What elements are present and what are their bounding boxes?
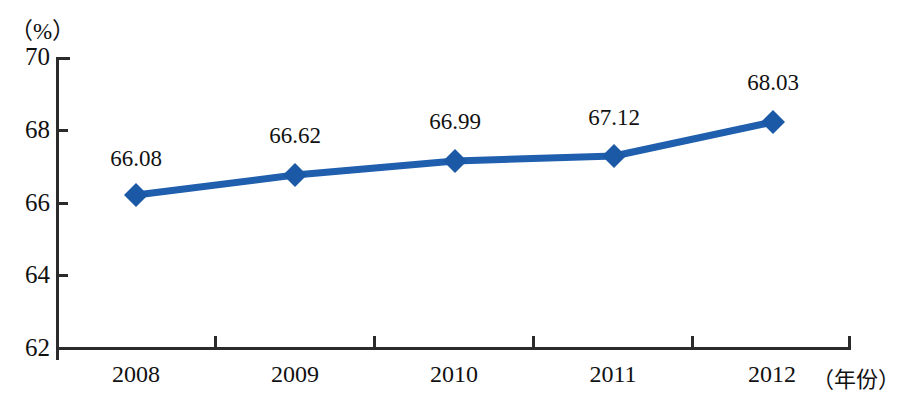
x-axis — [57, 336, 851, 349]
x-axis-unit-label: （年份） — [812, 361, 900, 393]
data-label-2009: 66.62 — [225, 124, 365, 147]
plot-area — [0, 0, 902, 393]
data-marker — [283, 163, 307, 187]
data-marker — [761, 110, 785, 134]
data-marker — [443, 149, 467, 173]
x-tick-label-2009: 2009 — [216, 360, 374, 388]
data-label-2010: 66.99 — [385, 110, 525, 133]
data-label-2012: 68.03 — [703, 71, 843, 94]
data-marker — [602, 144, 626, 168]
x-tick-label-2011: 2011 — [534, 360, 692, 388]
x-tick-label-2010: 2010 — [375, 360, 533, 388]
line-chart: （%） 70 68 66 64 62 — [0, 0, 902, 393]
data-label-2011: 67.12 — [544, 106, 684, 129]
data-label-2008: 66.08 — [66, 147, 206, 170]
data-marker — [124, 183, 148, 207]
x-tick-label-2008: 2008 — [57, 360, 215, 388]
y-axis — [57, 57, 70, 360]
